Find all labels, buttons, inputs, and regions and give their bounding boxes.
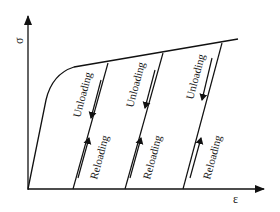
- y-axis-label: σ: [12, 37, 26, 44]
- reloading-label-3: Reloading: [200, 133, 223, 180]
- unloading-arrow-1: [91, 80, 101, 118]
- unloading-label-2: Unloading: [123, 60, 147, 108]
- reloading-arrow-1: [78, 138, 89, 178]
- reloading-label-1: Reloading: [87, 133, 110, 180]
- stress-strain-diagram: σ ε Unloading Reloading Unloading Reload…: [0, 0, 280, 212]
- x-axis-label: ε: [233, 192, 238, 206]
- reloading-label-2: Reloading: [140, 133, 163, 180]
- reloading-arrow-2: [130, 138, 141, 178]
- unloading-label-1: Unloading: [70, 70, 94, 118]
